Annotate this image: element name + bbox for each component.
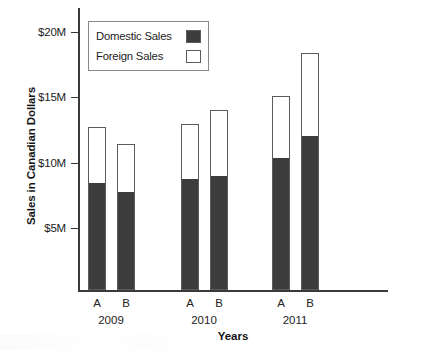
legend-label-foreign-sales: Foreign Sales — [96, 50, 163, 62]
bar-segment-domestic — [89, 183, 105, 289]
bar-2009-b — [117, 144, 135, 290]
x-group-label-2010: 2010 — [174, 314, 234, 326]
y-tick-label-20m: $20M — [38, 26, 66, 38]
x-category-label-2009-b: B — [111, 297, 141, 309]
y-axis-title: Sales in Canadian Dollars — [25, 51, 37, 261]
y-tick-label-15m: $15M — [38, 91, 66, 103]
y-tick-label-5m: $5M — [44, 222, 66, 234]
legend: Domestic Sales Foreign Sales — [88, 21, 209, 71]
bar-segment-domestic — [211, 176, 227, 289]
x-category-label-2011-a: A — [266, 297, 296, 309]
bar-2011-b — [301, 53, 319, 290]
x-category-label-2010-b: B — [204, 297, 234, 309]
legend-label-domestic-sales: Domestic Sales — [96, 30, 172, 42]
page-edge-artifact — [0, 334, 190, 350]
bar-2011-a — [272, 96, 290, 290]
bar-2010-a — [181, 124, 199, 290]
bar-segment-domestic — [182, 179, 198, 289]
y-tick-mark-5m — [71, 228, 78, 229]
bar-segment-domestic — [273, 158, 289, 289]
bar-2009-a — [88, 127, 106, 290]
x-axis-line — [78, 290, 388, 292]
legend-swatch-domestic-icon — [186, 30, 201, 43]
bar-2010-b — [210, 110, 228, 290]
bar-chart: $20M $15M $10M $5M Sales in Canadian Dol… — [0, 0, 427, 352]
bar-segment-domestic — [118, 192, 134, 289]
y-tick-mark-10m — [71, 163, 78, 164]
x-category-label-2009-a: A — [82, 297, 112, 309]
x-category-label-2010-a: A — [175, 297, 205, 309]
x-category-label-2011-b: B — [295, 297, 325, 309]
x-group-label-2011: 2011 — [265, 314, 325, 326]
legend-swatch-foreign-icon — [186, 50, 201, 63]
y-tick-mark-15m — [71, 97, 78, 98]
bar-segment-domestic — [302, 136, 318, 289]
y-axis-line — [78, 8, 80, 291]
legend-item-foreign-sales: Foreign Sales — [96, 46, 201, 66]
x-group-label-2009: 2009 — [81, 314, 141, 326]
legend-item-domestic-sales: Domestic Sales — [96, 26, 201, 46]
y-tick-label-10m: $10M — [38, 157, 66, 169]
y-tick-mark-20m — [71, 32, 78, 33]
